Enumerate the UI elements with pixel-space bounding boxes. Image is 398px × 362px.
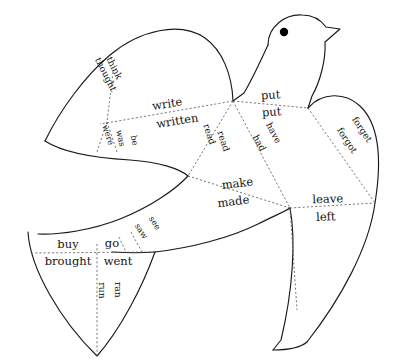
fold-saw-line bbox=[119, 237, 126, 252]
lower-wing-lower-outline bbox=[155, 208, 290, 252]
eye-icon bbox=[280, 28, 288, 36]
diagram-canvas: think thought be was were write written … bbox=[0, 0, 398, 362]
label-run: run bbox=[98, 282, 107, 298]
bird-figure bbox=[0, 0, 398, 362]
label-put-past: put bbox=[262, 106, 282, 119]
tail-upper-outline bbox=[273, 208, 293, 350]
label-put-base: put bbox=[261, 89, 281, 102]
label-ran: ran bbox=[114, 282, 123, 298]
label-buy: buy bbox=[57, 239, 78, 251]
label-brought: brought bbox=[45, 256, 92, 268]
label-left: left bbox=[316, 211, 336, 223]
label-be: be bbox=[129, 135, 139, 147]
label-was: was bbox=[115, 129, 127, 147]
lower-wing-outline bbox=[38, 176, 188, 234]
bottom-triangle-outline bbox=[28, 232, 155, 356]
label-went: went bbox=[104, 256, 133, 268]
label-go: go bbox=[105, 238, 119, 250]
fold-tail-line bbox=[290, 208, 297, 310]
label-leave: leave bbox=[312, 193, 343, 206]
